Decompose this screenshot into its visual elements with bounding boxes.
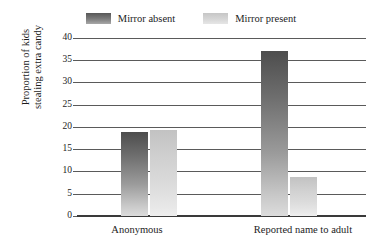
y-tick-label-5: 5: [52, 189, 72, 199]
gridline-25: [77, 105, 366, 106]
gridline-35: [77, 60, 366, 61]
y-tick-label-40: 40: [52, 33, 72, 43]
y-tick-label-20: 20: [52, 122, 72, 132]
bar-reported-mirror-absent: [261, 51, 288, 216]
y-tick-label-35: 35: [52, 55, 72, 65]
bar-anonymous-mirror-present: [150, 130, 177, 216]
bar-reported-mirror-present: [290, 177, 317, 216]
y-tick-label-0: 0: [52, 211, 72, 221]
y-tick-label-30: 30: [52, 77, 72, 87]
bar-anonymous-mirror-absent: [121, 132, 148, 216]
plot-area: [77, 38, 366, 216]
bar-chart-figure: Mirror absent Mirror present Proportion …: [0, 0, 382, 251]
y-tick-label-10: 10: [52, 166, 72, 176]
gridline-20: [77, 127, 366, 128]
x-axis-label-anonymous: Anonymous: [92, 224, 182, 236]
x-axis-label-reported-name-to-adult: Reported name to adult: [228, 224, 378, 236]
y-tick-label-25: 25: [52, 100, 72, 110]
gridline-40: [77, 38, 366, 39]
gridline-30: [77, 82, 366, 83]
y-tick-label-15: 15: [52, 144, 72, 154]
